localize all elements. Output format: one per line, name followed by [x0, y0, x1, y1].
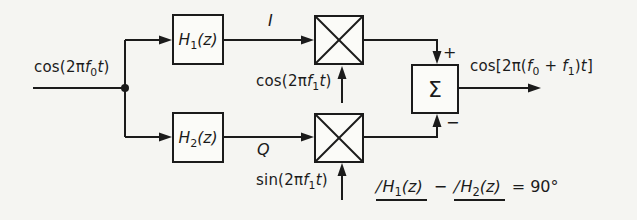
i-branch-arrowhead	[159, 36, 172, 45]
output-signal-label: cos[2π(f0 + f1)t]	[470, 57, 593, 75]
q-branch-arrowhead	[159, 133, 172, 142]
sin-carrier-label: sin(2πf1t)	[256, 171, 328, 189]
q-mult-to-summer-wire	[363, 126, 437, 137]
h1-to-multiplier-arrowhead	[301, 36, 314, 45]
i-summer-arrowhead	[433, 51, 442, 64]
i-path-label: I	[268, 11, 273, 30]
annotation-minus: −	[434, 177, 447, 196]
input-signal-label: cos(2πf0t)	[34, 58, 110, 76]
angle-h1-term: ∕H1(z)	[376, 177, 427, 201]
ssb-modulator-block-diagram: cos(2πf0t) H1(z) H2(z) I Q cos(2πf1t) si…	[0, 0, 637, 220]
summer-plus-sign: +	[443, 43, 456, 62]
angle-h2-term: ∕H2(z)	[454, 177, 505, 201]
cos-carrier-label: cos(2πf1t)	[256, 72, 332, 90]
q-summer-arrowhead	[433, 114, 442, 127]
phase-difference-annotation: ∕H1(z) − ∕H2(z) = 90°	[376, 177, 559, 201]
h2-to-multiplier-arrowhead	[301, 133, 314, 142]
summer-sigma-label: Σ	[412, 65, 458, 113]
h1-filter-label: H1(z)	[173, 15, 223, 64]
q-path-label: Q	[257, 140, 270, 159]
i-mult-to-summer-wire	[363, 40, 437, 52]
summer-minus-sign: −	[446, 113, 459, 132]
annotation-result: = 90°	[512, 177, 559, 196]
cos-carrier-arrowhead	[338, 66, 347, 79]
sin-carrier-arrowhead	[338, 163, 347, 176]
output-arrowhead	[528, 84, 541, 93]
h2-filter-label: H2(z)	[173, 113, 223, 162]
